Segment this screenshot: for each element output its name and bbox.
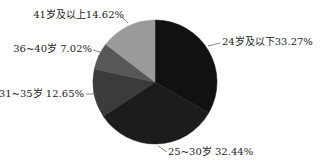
slice-label: 36~40岁 7.02% [13,42,92,54]
pie-slices [93,20,217,144]
pie-chart: 24岁及以下33.27%25~30岁 32.44%31~35岁 12.65%36… [0,0,321,167]
slice-label: 31~35岁 12.65% [0,87,84,99]
slice-label: 24岁及以下33.27% [222,35,313,47]
slice-label: 25~30岁 32.44% [168,145,253,157]
leader-line [158,146,167,152]
slice-label: 41岁及以上14.62% [33,8,124,20]
leader-line [208,43,220,46]
